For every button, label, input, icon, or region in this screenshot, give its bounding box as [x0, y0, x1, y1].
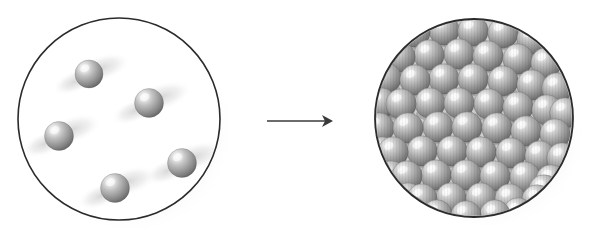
sphere-body: [75, 60, 103, 88]
dilute-particle-1: [75, 60, 103, 88]
sphere-body: [168, 149, 197, 178]
left-vessel-group: [17, 18, 235, 235]
dilute-particle-4: [168, 149, 197, 178]
dilute-particle-5: [101, 174, 130, 203]
sphere-highlight: [382, 35, 394, 46]
sphere-body: [45, 122, 74, 151]
sphere-highlight: [402, 200, 414, 211]
right-vessel-group: [364, 10, 588, 235]
sphere-body: [101, 174, 130, 203]
sphere-highlight: [405, 20, 417, 31]
phase-change-illustration: [0, 0, 603, 251]
illustration-canvas: [0, 0, 603, 251]
transition-arrow: [267, 115, 333, 127]
dilute-particle-3: [45, 122, 74, 151]
sphere-contact-shadow: [398, 217, 426, 230]
dilute-particle-2: [135, 89, 164, 118]
sphere-body: [135, 89, 164, 118]
